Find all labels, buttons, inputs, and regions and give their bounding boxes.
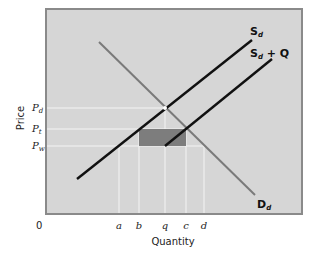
ytick-pd: Pd [31, 102, 44, 115]
xtick-q: q [162, 220, 168, 231]
plot-area [46, 9, 302, 214]
quota-rent-area [139, 129, 186, 146]
xtick-a: a [116, 220, 122, 231]
xtick-c: c [183, 220, 189, 231]
y-axis-label: Price [15, 106, 26, 130]
equilibrium-point [163, 106, 167, 110]
x-axis-label: Quantity [151, 236, 194, 247]
ytick-pw: Pw [31, 140, 45, 153]
xtick-d: d [201, 220, 207, 231]
ytick-pt: Pt [31, 123, 42, 136]
label-sd-plus-q: Sd + Q [250, 47, 289, 61]
origin-label: 0 [36, 220, 42, 231]
xtick-b: b [136, 220, 142, 231]
quota-diagram: Sd Sd + Q Dd Pd Pt Pw Price 0 a b q c d … [0, 0, 316, 258]
